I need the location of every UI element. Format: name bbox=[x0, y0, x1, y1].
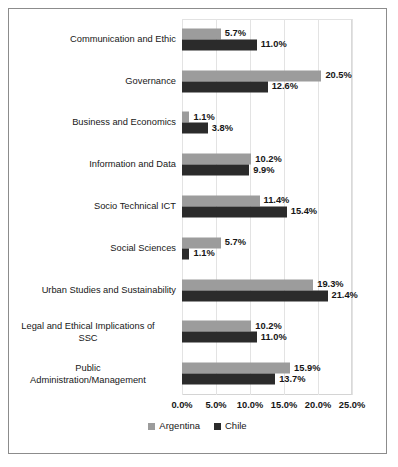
bar-value-label: 11.4% bbox=[264, 195, 290, 206]
bar-value-label: 15.9% bbox=[294, 363, 320, 374]
bar-argentina[interactable]: 19.3% bbox=[182, 279, 313, 290]
category-label: Social Sciences bbox=[8, 243, 182, 255]
bar-chile[interactable]: 21.4% bbox=[182, 290, 328, 301]
bar-argentina[interactable]: 10.2% bbox=[182, 154, 251, 165]
bar-group: Information and Data10.2%9.9% bbox=[182, 144, 352, 186]
category-label: Legal and Ethical Implications of SSC bbox=[4, 321, 182, 344]
bar-value-label: 10.2% bbox=[255, 321, 281, 332]
bar-group: Urban Studies and Sustainability19.3%21.… bbox=[182, 270, 352, 312]
chart-legend: ArgentinaChile bbox=[9, 421, 386, 431]
bar-value-label: 13.7% bbox=[279, 374, 305, 385]
bar-group: Communication and Ethic5.7%11.0% bbox=[182, 19, 352, 61]
x-axis-tick-label: 25.0% bbox=[339, 399, 365, 411]
bar-value-label: 20.5% bbox=[325, 70, 351, 81]
bar-pair: 20.5%12.6% bbox=[182, 70, 352, 93]
bar-argentina[interactable]: 11.4% bbox=[182, 195, 260, 206]
bar-group: Public Administration/Management15.9%13.… bbox=[182, 353, 352, 395]
bar-argentina[interactable]: 10.2% bbox=[182, 321, 251, 332]
bar-pair: 5.7%11.0% bbox=[182, 28, 352, 51]
x-axis: 0.0%5.0%10.0%15.0%20.0%25.0% bbox=[182, 399, 352, 413]
bar-value-label: 1.1% bbox=[193, 248, 214, 259]
bar-chile[interactable]: 11.0% bbox=[182, 332, 257, 343]
bar-group: Business and Economics1.1%3.8% bbox=[182, 103, 352, 145]
bar-argentina[interactable]: 20.5% bbox=[182, 70, 321, 81]
legend-label: Argentina bbox=[159, 421, 200, 431]
bar-argentina[interactable]: 5.7% bbox=[182, 28, 221, 39]
legend-item-chile[interactable]: Chile bbox=[214, 421, 247, 431]
bar-pair: 10.2%9.9% bbox=[182, 154, 352, 177]
bar-pair: 10.2%11.0% bbox=[182, 321, 352, 344]
x-axis-tick-label: 5.0% bbox=[205, 399, 226, 411]
bar-group: Governance20.5%12.6% bbox=[182, 61, 352, 103]
bar-value-label: 11.0% bbox=[261, 332, 287, 343]
bar-value-label: 5.7% bbox=[225, 28, 246, 39]
bar-pair: 5.7%1.1% bbox=[182, 237, 352, 260]
bar-value-label: 1.1% bbox=[193, 112, 214, 123]
legend-swatch-icon bbox=[214, 423, 221, 430]
x-axis-tick-label: 10.0% bbox=[237, 399, 263, 411]
bar-argentina[interactable]: 5.7% bbox=[182, 237, 221, 248]
bar-pair: 1.1%3.8% bbox=[182, 112, 352, 135]
legend-swatch-icon bbox=[148, 423, 155, 430]
bar-chile[interactable]: 12.6% bbox=[182, 81, 268, 92]
bar-chile[interactable]: 1.1% bbox=[182, 248, 189, 259]
bar-pair: 11.4%15.4% bbox=[182, 195, 352, 218]
bar-value-label: 10.2% bbox=[255, 154, 281, 165]
x-axis-tick-label: 0.0% bbox=[171, 399, 192, 411]
bar-chile[interactable]: 9.9% bbox=[182, 165, 249, 176]
bar-chile[interactable]: 3.8% bbox=[182, 123, 208, 134]
legend-label: Chile bbox=[225, 421, 247, 431]
chart-frame: Communication and Ethic5.7%11.0%Governan… bbox=[8, 8, 387, 454]
category-label: Socio Technical ICT bbox=[8, 201, 182, 213]
category-label: Information and Data bbox=[8, 159, 182, 171]
bar-chile[interactable]: 13.7% bbox=[182, 374, 275, 385]
bar-argentina[interactable]: 15.9% bbox=[182, 363, 290, 374]
bar-argentina[interactable]: 1.1% bbox=[182, 112, 189, 123]
bar-value-label: 12.6% bbox=[272, 81, 298, 92]
bar-value-label: 9.9% bbox=[253, 165, 274, 176]
bar-group: Social Sciences5.7%1.1% bbox=[182, 228, 352, 270]
x-axis-tick-label: 15.0% bbox=[271, 399, 297, 411]
gridline-250 bbox=[352, 19, 353, 395]
category-label: Governance bbox=[8, 76, 182, 88]
bar-chile[interactable]: 11.0% bbox=[182, 39, 257, 50]
bar-group: Legal and Ethical Implications of SSC10.… bbox=[182, 311, 352, 353]
category-label: Public Administration/Management bbox=[4, 363, 182, 386]
category-label: Communication and Ethic bbox=[8, 34, 182, 46]
x-axis-tick-label: 20.0% bbox=[305, 399, 331, 411]
bar-pair: 15.9%13.7% bbox=[182, 363, 352, 386]
bar-value-label: 11.0% bbox=[261, 39, 287, 50]
category-label: Business and Economics bbox=[8, 118, 182, 130]
bar-pair: 19.3%21.4% bbox=[182, 279, 352, 302]
bar-value-label: 19.3% bbox=[317, 279, 343, 290]
bar-value-label: 15.4% bbox=[291, 206, 317, 217]
legend-item-argentina[interactable]: Argentina bbox=[148, 421, 200, 431]
bar-value-label: 5.7% bbox=[225, 237, 246, 248]
category-label: Urban Studies and Sustainability bbox=[8, 285, 182, 297]
bar-chile[interactable]: 15.4% bbox=[182, 206, 287, 217]
bar-value-label: 3.8% bbox=[212, 123, 233, 134]
bar-value-label: 21.4% bbox=[332, 290, 358, 301]
bar-group: Socio Technical ICT11.4%15.4% bbox=[182, 186, 352, 228]
